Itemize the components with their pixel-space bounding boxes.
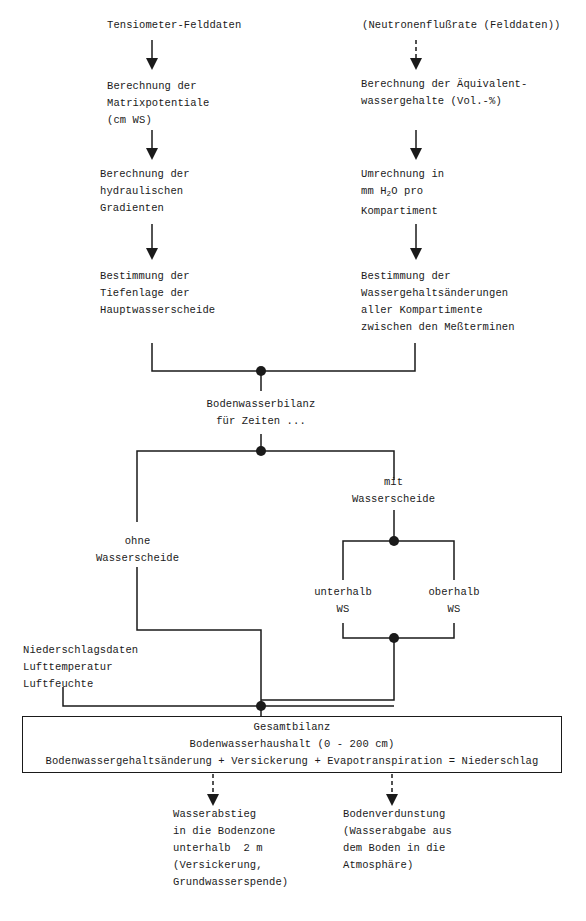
junction-dot-3 bbox=[389, 536, 399, 546]
junction-dot-2 bbox=[256, 446, 266, 456]
right-step-water-content-changes: Bestimmung der Wassergehaltsänderungen a… bbox=[361, 268, 515, 336]
total-balance-title: Gesamtbilanz bbox=[23, 717, 561, 736]
total-balance-box: Gesamtbilanz Bodenwasserhaushalt (0 - 20… bbox=[22, 716, 562, 773]
left-step-watershed-depth: Bestimmung der Tiefenlage der Hauptwasse… bbox=[100, 268, 215, 319]
branch-with-watershed: mit Wasserscheide bbox=[336, 474, 451, 508]
sub-branch-above-ws: oberhalb WS bbox=[417, 584, 491, 618]
branch-without-watershed: ohne Wasserscheide bbox=[80, 533, 195, 567]
connector-lines bbox=[0, 0, 586, 921]
right-step-equivalent-water: Berechnung der Äquivalent- wassergehalte… bbox=[361, 76, 527, 110]
soil-water-balance-label: Bodenwasserbilanz für Zeiten ... bbox=[201, 396, 321, 430]
total-balance-subtitle: Bodenwasserhaushalt (0 - 200 cm) bbox=[23, 736, 561, 753]
neutron-source: (Neutronenflußrate (Felddaten)) bbox=[362, 17, 560, 34]
junction-dot-1 bbox=[256, 366, 266, 376]
tensiometer-source: Tensiometer-Felddaten bbox=[107, 17, 241, 34]
left-step-matrixpotential: Berechnung der Matrixpotentiale (cm WS) bbox=[107, 78, 209, 129]
junction-dot-4 bbox=[389, 633, 399, 643]
junction-dot-5 bbox=[256, 701, 266, 711]
output-percolation: Wasserabstieg in die Bodenzone unterhalb… bbox=[173, 806, 288, 891]
right-step-conversion: Umrechnung in mm H2O pro Kompartiment bbox=[361, 166, 444, 220]
climate-data-inputs: Niederschlagsdaten Lufttemperatur Luftfe… bbox=[23, 642, 138, 693]
total-balance-equation: Bodenwassergehaltsänderung + Versickerun… bbox=[23, 753, 561, 770]
output-soil-evaporation: Bodenverdunstung (Wasserabgabe aus dem B… bbox=[343, 806, 452, 874]
left-step-gradients: Berechnung der hydraulischen Gradienten bbox=[100, 166, 190, 217]
sub-branch-below-ws: unterhalb WS bbox=[306, 584, 380, 618]
